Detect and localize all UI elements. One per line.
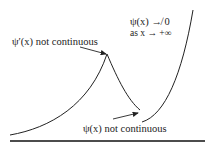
wavefunction-diagram: ψ′(x) not continuous ψ(x) not continuous… — [0, 0, 209, 151]
function-discontinuity-label: ψ(x) not continuous — [83, 123, 167, 134]
limit-label-line2: as x → +∞ — [130, 28, 171, 39]
arrow-derivative — [80, 47, 106, 54]
arrow-function — [113, 113, 138, 119]
descending-curve — [107, 54, 140, 110]
limit-label-line1: ψ(x) ↛ 0 — [130, 16, 170, 27]
derivative-discontinuity-label: ψ′(x) not continuous — [12, 36, 98, 47]
